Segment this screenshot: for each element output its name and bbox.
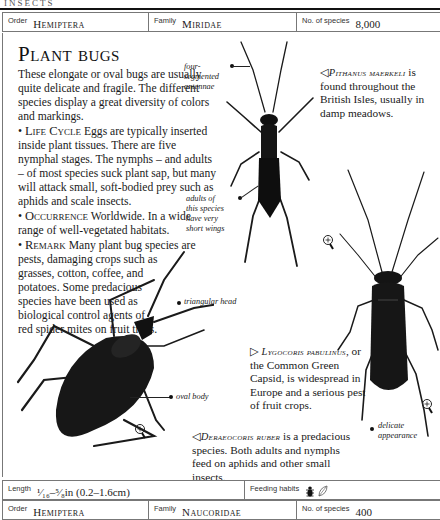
species-count-value: 8,000 [356,18,381,30]
feeding-habits-label: Feeding habits [250,484,299,493]
left-arrow-icon: ◁ [320,66,329,78]
annotation-antennae: four-segmented antennae [184,62,220,92]
species-name: Pithanus maerkeli [329,67,406,78]
family-value: Miridae [182,18,222,30]
top-rule [0,8,440,10]
magnifier-icon [421,398,435,416]
species-name: pabulinus [307,346,346,357]
family-label: Family [154,504,176,513]
annotation-delicate-appearance: delicate appearance [378,421,428,441]
species-count-cell: No. of species 8,000 [297,13,440,31]
order-label: Order [8,504,27,513]
species-name: Deraeocoris ruber [201,431,280,442]
next-entry-classification-bar: Order Hemiptera Family Naucoridae No. of… [2,500,440,520]
magnifier-icon [134,423,148,441]
annotation-dot [370,427,374,431]
species-count-label: No. of species [302,504,350,513]
family-cell: Family Naucoridae [149,501,297,519]
order-value: Hemiptera [33,506,85,518]
order-cell: Order Hemiptera [3,501,149,519]
family-cell: Family Miridae [149,13,297,31]
family-value: Naucoridae [182,506,241,518]
caption-text: Common Green Capsid, is widespread in Eu… [250,359,365,412]
left-arrow-icon: ◁ [192,430,201,442]
length-feeding-bar: Length ¹⁄₁₆–⁵⁄₈in (0.2–1.6cm) Feeding ha… [2,480,440,500]
length-label: Length [8,484,31,493]
deraeocoris-ruber-illustration [14,250,214,450]
caption-deraeocoris: ◁Deraeocoris ruber is a predacious speci… [192,430,352,484]
order-label: Order [8,16,27,25]
caption-pithanus: ◁Pithanus maerkeli is found throughout t… [320,66,438,120]
species-count-label: No. of species [302,16,350,25]
order-value: Hemiptera [33,18,85,30]
right-arrow-icon: ▷ [250,345,259,357]
insect-icon [305,485,315,497]
bullet: • [18,125,22,138]
order-cell: Order Hemiptera [3,13,149,31]
annotation-leader [232,66,250,67]
caption-lygocoris: ▷ Lygocoris pabulinus, or the Common Gre… [250,345,368,413]
annotation-leader [130,397,170,398]
pithanus-maerkeli-illustration [225,40,315,270]
leaf-icon [318,485,328,497]
bullet: • [18,210,22,223]
page-title: Plant bugs [18,42,120,67]
annotation-oval-body: oval body [176,392,226,402]
length-value: ¹⁄₁₆–⁵⁄₈in (0.2–1.6cm) [37,486,130,498]
feeding-habits-cell: Feeding habits [245,481,440,499]
species-count-cell: No. of species 400 [297,501,440,519]
annotation-triangular-head: triangular head [184,297,254,307]
family-label: Family [154,16,176,25]
section-heading: Life Cycle [25,124,81,138]
annotation-short-wings: adults of this species have very short w… [186,194,228,234]
length-cell: Length ¹⁄₁₆–⁵⁄₈in (0.2–1.6cm) [3,481,245,499]
annotation-dot [177,301,181,305]
section-heading: Occurrence [25,209,88,223]
classification-bar: Order Hemiptera Family Miridae No. of sp… [2,12,440,32]
annotation-dot [169,395,173,399]
species-count-value: 400 [356,506,373,518]
running-head: INSECTS [0,0,440,8]
species-name: Lygocoris [262,346,304,357]
